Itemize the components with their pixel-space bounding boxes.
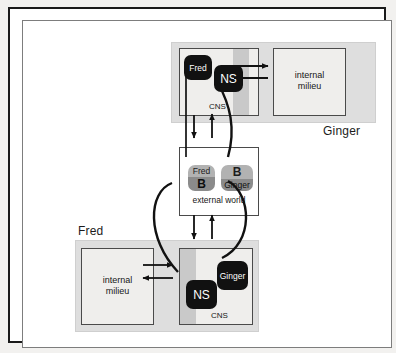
fred-b-actor-bottom: B [188,177,215,191]
ginger-cns-label: CNS [209,102,226,111]
ginger-internal-milieu-line1: internal [295,70,325,80]
figure-frame-inner: Ginger CNS internal milieu Fred NS exter… [22,20,392,348]
external-world-label: external world [179,195,259,206]
ginger-chip-bottom: Ginger [217,261,248,290]
fred-internal-milieu-label: internal milieu [81,275,154,297]
fred-cns-label: CNS [211,311,228,320]
organism-fred-label: Fred [78,224,103,238]
ns-chip-top: NS [214,65,243,92]
b-ginger-actor-top: B [221,165,253,179]
ginger-internal-milieu-label: internal milieu [273,70,346,92]
organism-ginger-label: Ginger [323,124,360,138]
b-ginger-actor-bottom: Ginger [221,179,253,191]
fred-internal-milieu-line2: milieu [106,286,130,296]
ns-chip-bottom: NS [186,280,217,309]
fred-b-actor-top: Fred [188,165,215,177]
fred-chip-top: Fred [184,55,212,80]
fred-b-actor: Fred B [188,165,215,191]
figure-frame-outer: Ginger CNS internal milieu Fred NS exter… [8,7,386,343]
fred-internal-milieu-line1: internal [103,275,133,285]
b-ginger-actor: B Ginger [221,165,253,191]
ginger-internal-milieu-line2: milieu [298,81,322,91]
figure-root: Ginger CNS internal milieu Fred NS exter… [0,0,396,353]
